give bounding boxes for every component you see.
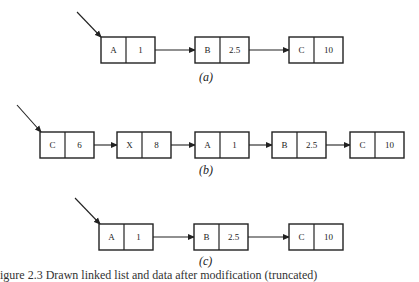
panel-label-b: (b) — [199, 163, 213, 178]
node-key: B — [281, 140, 287, 150]
node-value: 10 — [324, 45, 334, 55]
node-value: 10 — [324, 232, 334, 242]
list-node: B2.5 — [272, 132, 326, 158]
panel-label-c: (c) — [199, 254, 212, 269]
list-node: B2.5 — [194, 224, 248, 250]
list-node: A1 — [195, 132, 249, 158]
node-key: C — [298, 45, 304, 55]
list-node: C10 — [350, 132, 404, 158]
node-key: A — [108, 232, 115, 242]
node-value: 10 — [385, 140, 395, 150]
panel-c: A1B2.5C10 — [75, 198, 343, 250]
panel-b: C6X8A1B2.5C10 — [17, 105, 404, 158]
node-key: A — [204, 140, 211, 150]
node-value: 2.5 — [306, 140, 318, 150]
node-value: 2.5 — [229, 45, 241, 55]
list-node: C6 — [40, 132, 94, 158]
head-pointer-arrow — [77, 12, 101, 37]
panel-label-a: (a) — [199, 70, 213, 85]
node-value: 1 — [232, 140, 237, 150]
list-node: A1 — [99, 224, 153, 250]
node-key: A — [110, 45, 117, 55]
node-key: B — [204, 45, 210, 55]
list-node: C10 — [289, 224, 343, 250]
panel-a: A1B2.5C10 — [77, 12, 343, 63]
node-key: B — [203, 232, 209, 242]
list-node: A1 — [101, 37, 155, 63]
node-key: C — [49, 140, 55, 150]
head-pointer-arrow — [75, 198, 100, 224]
node-value: 1 — [136, 232, 141, 242]
list-node: B2.5 — [195, 37, 249, 63]
node-value: 1 — [138, 45, 143, 55]
node-value: 2.5 — [228, 232, 240, 242]
list-node: C10 — [289, 37, 343, 63]
head-pointer-arrow — [17, 105, 41, 132]
node-key: C — [359, 140, 365, 150]
figure-caption: igure 2.3 Drawn linked list and data aft… — [0, 268, 419, 282]
node-value: 6 — [77, 140, 82, 150]
node-key: X — [126, 140, 133, 150]
node-key: C — [298, 232, 304, 242]
node-value: 8 — [154, 140, 159, 150]
list-node: X8 — [117, 132, 171, 158]
